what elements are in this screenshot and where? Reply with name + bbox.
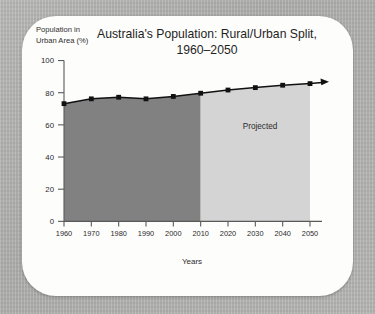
projected-annotation-label: Projected [243, 122, 278, 131]
y-tick-label-100: 100 [41, 56, 55, 65]
y-axis-label-line2: Urban Area (%) [36, 36, 89, 45]
data-marker-2010 [198, 91, 203, 96]
y-axis-ticks: 0 20 40 60 80 100 [41, 56, 64, 226]
x-tick-label-2040: 2040 [274, 229, 290, 238]
x-tick-label-1960: 1960 [56, 229, 72, 238]
population-area-chart: Australia's Population: Rural/Urban Spli… [22, 16, 353, 296]
data-marker-2020 [226, 88, 231, 93]
data-marker-1990 [144, 96, 149, 101]
data-marker-1980 [116, 95, 121, 100]
y-tick-label-0: 0 [50, 217, 55, 226]
data-marker-1970 [89, 96, 94, 101]
x-tick-label-2000: 2000 [165, 229, 181, 238]
y-tick-label-60: 60 [45, 121, 54, 130]
chart-title-line2: 1960–2050 [176, 43, 237, 57]
data-marker-2040 [280, 83, 285, 88]
data-marker-1960 [62, 101, 67, 106]
y-tick-label-80: 80 [45, 89, 54, 98]
chart-card: Australia's Population: Rural/Urban Spli… [22, 16, 353, 296]
x-axis-ticks: 1960 1970 1980 1990 2000 2010 2020 2030 … [56, 221, 318, 237]
x-tick-label-2020: 2020 [220, 229, 236, 238]
historical-area-fill [64, 93, 201, 221]
y-axis-label-line1: Population in [36, 25, 80, 34]
x-tick-label-2050: 2050 [302, 229, 318, 238]
data-marker-2030 [253, 85, 258, 90]
x-tick-label-2010: 2010 [192, 229, 208, 238]
screenshot-root: Australia's Population: Rural/Urban Spli… [0, 0, 375, 314]
data-marker-2050 [308, 81, 313, 86]
projected-area-fill [201, 84, 310, 222]
trend-arrow-head [321, 79, 330, 86]
data-marker-2000 [171, 94, 176, 99]
x-tick-label-1990: 1990 [138, 229, 154, 238]
x-tick-label-2030: 2030 [247, 229, 263, 238]
x-tick-label-1980: 1980 [110, 229, 126, 238]
x-axis-label: Years [182, 257, 202, 266]
x-tick-label-1970: 1970 [83, 229, 99, 238]
y-tick-label-40: 40 [45, 153, 54, 162]
chart-title-line1: Australia's Population: Rural/Urban Spli… [97, 27, 317, 41]
y-tick-label-20: 20 [45, 185, 54, 194]
